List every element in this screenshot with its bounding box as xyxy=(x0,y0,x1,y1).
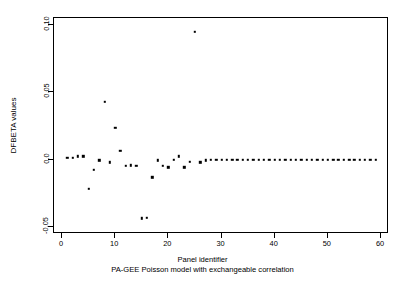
scatter-point xyxy=(125,165,127,167)
x-axis: 0102030405060 xyxy=(53,233,388,249)
scatter-point xyxy=(130,164,132,166)
scatter-point xyxy=(119,150,121,152)
x-axis-tick-label: 40 xyxy=(270,239,278,248)
scatter-point xyxy=(284,159,286,161)
scatter-point xyxy=(353,159,355,161)
scatter-point xyxy=(369,159,371,161)
plot-area xyxy=(53,17,388,233)
scatter-point xyxy=(236,159,238,161)
x-axis-tick-label: 0 xyxy=(59,239,63,248)
scatter-point xyxy=(167,166,169,168)
scatter-points-layer xyxy=(54,18,387,232)
x-axis-title: Panel identifier xyxy=(0,255,405,265)
scatter-point xyxy=(146,217,148,219)
scatter-point xyxy=(141,217,143,219)
scatter-point xyxy=(263,159,265,161)
scatter-point xyxy=(332,159,334,161)
scatter-point xyxy=(364,159,366,161)
y-axis-tick-label: -0.05 xyxy=(42,217,51,234)
x-axis-tick xyxy=(327,233,328,238)
x-axis-tick-label: 50 xyxy=(323,239,331,248)
scatter-point xyxy=(258,159,260,161)
scatter-point xyxy=(289,159,291,161)
scatter-point xyxy=(279,159,281,161)
scatter-point xyxy=(327,159,329,161)
scatter-point xyxy=(316,159,318,161)
scatter-point xyxy=(151,176,153,178)
scatter-point xyxy=(231,159,233,161)
scatter-point xyxy=(242,159,244,161)
scatter-point xyxy=(172,159,174,161)
scatter-point xyxy=(114,127,116,129)
scatter-point xyxy=(343,159,345,161)
chart-page: DFBETA values 0.100.050.0-0.05 010203040… xyxy=(0,0,405,285)
x-axis-tick-label: 60 xyxy=(376,239,384,248)
y-axis-tick-label: 0.05 xyxy=(42,84,51,98)
x-axis-tick-label: 20 xyxy=(163,239,171,248)
scatter-point xyxy=(98,159,100,161)
scatter-point xyxy=(178,155,180,157)
scatter-point xyxy=(156,159,158,161)
scatter-point xyxy=(311,159,313,161)
scatter-point xyxy=(109,161,111,163)
x-axis-tick xyxy=(114,233,115,238)
scatter-point xyxy=(305,159,307,161)
y-axis-tick-label: 0.0 xyxy=(42,153,51,163)
scatter-point xyxy=(87,188,89,190)
scatter-point xyxy=(194,30,196,32)
scatter-point xyxy=(337,159,339,161)
scatter-point xyxy=(273,159,275,161)
y-axis-title-text: DFBETA values xyxy=(10,97,19,153)
chart-captions: Panel identifier PA-GEE Poisson model wi… xyxy=(0,255,405,275)
scatter-point xyxy=(77,155,79,157)
scatter-point xyxy=(66,157,68,159)
x-axis-tick-label: 10 xyxy=(110,239,118,248)
y-axis-tick-label: 0.10 xyxy=(42,16,51,30)
scatter-point xyxy=(71,157,73,159)
scatter-point xyxy=(210,159,212,161)
scatter-point xyxy=(295,159,297,161)
scatter-point xyxy=(300,159,302,161)
scatter-point xyxy=(162,165,164,167)
scatter-point xyxy=(199,161,201,163)
scatter-point xyxy=(247,159,249,161)
x-axis-tick xyxy=(167,233,168,238)
y-axis-title: DFBETA values xyxy=(8,17,20,233)
scatter-point xyxy=(252,159,254,161)
x-axis-tick xyxy=(61,233,62,238)
chart-subcaption: PA-GEE Poisson model with exchangeable c… xyxy=(0,265,405,275)
scatter-point xyxy=(359,159,361,161)
scatter-point xyxy=(220,159,222,161)
scatter-point xyxy=(183,166,185,168)
x-axis-tick xyxy=(221,233,222,238)
scatter-point xyxy=(82,155,84,157)
scatter-point xyxy=(226,159,228,161)
scatter-point xyxy=(93,169,95,171)
x-axis-tick-label: 30 xyxy=(216,239,224,248)
x-axis-tick xyxy=(380,233,381,238)
x-axis-tick xyxy=(274,233,275,238)
scatter-point xyxy=(103,100,105,102)
scatter-point xyxy=(135,165,137,167)
scatter-point xyxy=(348,159,350,161)
scatter-point xyxy=(321,159,323,161)
scatter-point xyxy=(215,159,217,161)
scatter-point xyxy=(188,161,190,163)
scatter-point xyxy=(268,159,270,161)
scatter-point xyxy=(375,159,377,161)
y-axis: 0.100.050.0-0.05 xyxy=(40,17,53,233)
scatter-point xyxy=(204,159,206,161)
